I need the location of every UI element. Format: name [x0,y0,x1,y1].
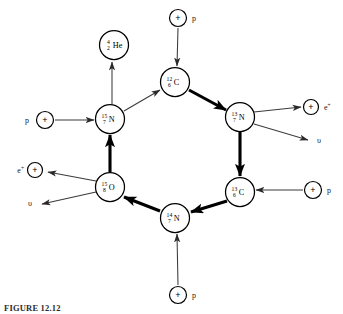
arrow-n14-to-o15 [124,197,160,211]
particle-label-sup-positron-right: + [328,102,331,108]
particle-label-p-left: p [25,116,29,125]
particle-label-p-bottom: p [192,291,196,300]
arrow-c13-to-n14 [191,201,227,212]
arrow-n13-to-pos [254,107,301,112]
atomic-number-n15: 7 [103,119,106,125]
nucleus-c13: 136C [226,178,255,207]
plus-icon-p-right: + [310,185,315,195]
arrow-p-to-n14 [177,234,178,285]
element-symbol-n14: N [174,214,180,223]
neutrino-label-nu-left: υ [28,199,32,208]
figure-canvas: +p+p+p+p+e++e+ 42He126C137N136C147N158O1… [0,0,343,314]
arrow-n15-to-c12 [124,90,160,111]
plus-icon-p-bottom: + [175,290,180,300]
atomic-number-he4: 2 [107,45,110,51]
particle-label-positron-left: e+ [17,165,24,175]
particle-positron-left: +e+ [17,163,42,178]
cno-cycle-diagram: +p+p+p+p+e++e+ 42He126C137N136C147N158O1… [0,0,343,314]
plus-icon-p-left: + [42,115,47,125]
atomic-number-o15: 8 [103,187,106,193]
arrow-p-to-c12 [177,28,178,66]
nucleus-n13: 137N [226,103,255,132]
nucleus-he4: 42He [100,31,129,60]
mass-number-he4: 4 [107,39,110,45]
arrow-n13-to-nu [254,124,308,140]
arrow-c12-to-n13 [189,90,226,110]
neutrino-label-nu-right: υ [317,136,321,145]
nucleus-n14: 147N [161,204,190,233]
atomic-number-c12: 6 [168,82,171,88]
nuclei-layer: 42He126C137N136C147N158O157N [96,31,255,233]
mass-number-n14: 14 [167,212,173,218]
element-symbol-n15: N [109,115,115,124]
element-symbol-c12: C [174,78,180,87]
arrow-o15-to-pos [48,172,96,181]
element-symbol-o15: O [109,183,115,192]
particle-label-p-right: p [327,186,331,195]
mass-number-c12: 12 [167,76,173,82]
particle-label-p-top: p [192,14,196,23]
mass-number-c13: 13 [232,186,238,192]
atomic-number-n13: 7 [233,117,236,123]
arrow-o15-to-nu [42,192,96,204]
mass-number-n15: 15 [102,113,108,119]
nucleus-o15: 158O [96,173,125,202]
particle-p-right: +p [305,182,332,199]
plus-icon-positron-right: + [308,102,313,112]
particle-layer: +p+p+p+p+e++e+ [17,10,331,304]
mass-number-o15: 15 [102,181,108,187]
particle-p-left: +p [25,112,54,129]
element-symbol-n13: N [239,113,245,122]
mass-number-n13: 13 [232,111,238,117]
particle-p-top: +p [170,10,197,27]
plus-icon-p-top: + [175,13,180,23]
particle-p-bottom: +p [170,287,197,304]
element-symbol-c13: C [239,188,245,197]
nucleus-n15: 157N [96,105,125,134]
particle-label-sup-positron-left: + [21,165,24,171]
particle-label-positron-right: e+ [324,102,331,112]
arrow-layer [42,28,308,285]
element-symbol-he4: He [113,41,123,50]
nucleus-c12: 126C [161,68,190,97]
particle-positron-right: +e+ [304,100,331,115]
plus-icon-positron-left: + [32,165,37,175]
atomic-number-c13: 6 [233,192,236,198]
atomic-number-n14: 7 [168,218,171,224]
figure-caption: FIGURE 12.12 [4,303,61,313]
